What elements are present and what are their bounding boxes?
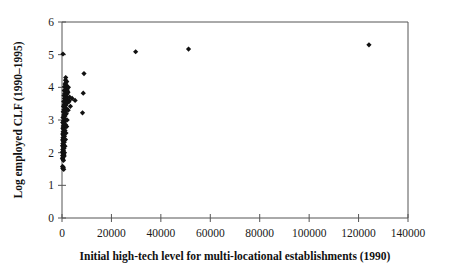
x-tick-label: 120000 [341, 227, 376, 239]
data-point [81, 91, 86, 96]
y-axis-title: Log employed CLF (1990–1995) [12, 41, 25, 198]
plot-canvas: 0123456020000400006000080000100000120000… [0, 0, 450, 273]
scatter-chart: 0123456020000400006000080000100000120000… [0, 0, 450, 273]
y-tick-label: 5 [48, 49, 54, 61]
data-point [60, 51, 65, 56]
y-tick-label: 3 [48, 114, 54, 126]
data-point [133, 49, 138, 54]
x-tick-label: 80000 [245, 227, 274, 239]
x-tick-label: 0 [59, 227, 65, 239]
y-tick-label: 2 [48, 147, 54, 159]
data-point [81, 71, 86, 76]
x-tick-label: 20000 [97, 227, 126, 239]
y-tick-label: 0 [48, 212, 54, 224]
data-point [80, 110, 85, 115]
data-point [186, 47, 191, 52]
y-tick-label: 4 [48, 81, 54, 93]
x-axis-title: Initial high-tech level for multi-locati… [80, 250, 391, 263]
x-tick-label: 140000 [391, 227, 426, 239]
x-tick-label: 60000 [196, 227, 225, 239]
data-point [366, 42, 371, 47]
y-tick-label: 1 [48, 179, 54, 191]
data-series-establishments [60, 42, 372, 172]
y-tick-label: 6 [48, 16, 54, 28]
x-tick-label: 40000 [146, 227, 175, 239]
x-tick-label: 100000 [292, 227, 327, 239]
